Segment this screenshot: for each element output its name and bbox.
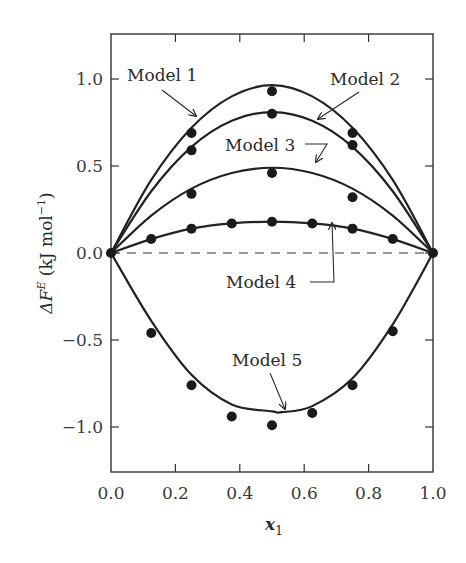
model-3-label: Model 3 [225, 135, 295, 155]
data-point-model-2 [348, 140, 358, 150]
y-tick-label: 0.0 [76, 243, 103, 263]
data-point-model-5 [388, 326, 398, 336]
excess-free-energy-chart: 0.00.20.40.60.81.01.00.50.0−0.5−1.0 Mode… [0, 0, 466, 563]
data-point-model-2 [187, 145, 197, 155]
model-3-arrow [305, 144, 327, 162]
data-point-model-3 [187, 189, 197, 199]
annotation-model-5: Model 5 [232, 350, 302, 409]
model-1-arrow [162, 90, 196, 116]
x-tick-label: 0.8 [355, 483, 382, 503]
x-tick-label: 1.0 [419, 483, 446, 503]
x-tick-label: 0.0 [97, 483, 124, 503]
data-point-model-1 [267, 86, 277, 96]
model-2-label: Model 2 [330, 69, 400, 89]
model-1-label: Model 1 [127, 65, 197, 85]
y-tick-label: −1.0 [62, 417, 103, 437]
annotation-model-4: Model 4 [226, 223, 334, 292]
model-5-label: Model 5 [232, 350, 302, 370]
x-tick-label: 0.6 [291, 483, 318, 503]
model-4-label: Model 4 [226, 272, 296, 292]
x-axis-title: x1 [264, 514, 283, 538]
data-point-model-1 [428, 248, 438, 258]
data-point-model-5 [146, 328, 156, 338]
curve-model-2 [111, 112, 433, 253]
y-tick-label: 0.5 [76, 156, 103, 176]
x-tick-label: 0.2 [162, 483, 189, 503]
data-point-model-5 [307, 408, 317, 418]
annotation-model-2: Model 2 [318, 69, 400, 119]
data-point-model-5 [227, 412, 237, 422]
data-point-model-4 [267, 217, 277, 227]
data-point-model-3 [348, 192, 358, 202]
x-tick-label: 0.4 [226, 483, 253, 503]
data-point-model-1 [187, 128, 197, 138]
data-point-model-2 [267, 109, 277, 119]
model-5-arrow [270, 373, 285, 409]
data-point-model-1 [106, 248, 116, 258]
data-point-model-5 [267, 420, 277, 430]
data-point-model-5 [348, 380, 358, 390]
data-point-model-4 [388, 234, 398, 244]
data-point-model-1 [348, 128, 358, 138]
data-point-model-4 [187, 224, 197, 234]
y-tick-label: −0.5 [62, 330, 103, 350]
data-point-model-4 [227, 218, 237, 228]
data-point-model-3 [267, 168, 277, 178]
data-point-model-4 [307, 218, 317, 228]
y-axis-title: ΔFE (kJ mol−1) [35, 192, 56, 314]
data-point-model-4 [348, 224, 358, 234]
annotation-model-1: Model 1 [127, 65, 197, 116]
annotation-model-3: Model 3 [225, 135, 327, 162]
data-point-model-4 [146, 234, 156, 244]
data-point-model-5 [187, 380, 197, 390]
y-tick-label: 1.0 [76, 69, 103, 89]
